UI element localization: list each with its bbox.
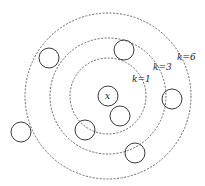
- ring-label-k3: k=3: [153, 62, 172, 72]
- ring-label-k1: k=1: [132, 74, 151, 84]
- query-point-label: x: [105, 91, 110, 101]
- data-point: [162, 89, 182, 109]
- knn-diagram: x k=1 k=3 k=6: [0, 0, 205, 186]
- data-point: [110, 106, 130, 126]
- data-point: [125, 143, 145, 163]
- data-point: [39, 48, 59, 68]
- data-point: [11, 122, 31, 142]
- ring-label-k6: k=6: [177, 52, 196, 62]
- data-point: [114, 40, 134, 60]
- data-point: [75, 120, 95, 140]
